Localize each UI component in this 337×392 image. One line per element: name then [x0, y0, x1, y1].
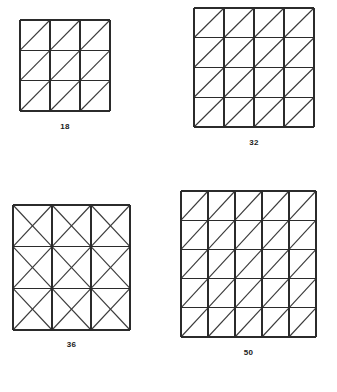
grid-drawing-50: [180, 190, 317, 338]
figure-36: 36: [12, 204, 131, 331]
figure-50: 50: [180, 190, 317, 338]
figure-32: 32: [193, 7, 315, 128]
grid-drawing-18: [19, 19, 111, 112]
figure-label-36: 36: [12, 340, 131, 350]
figure-label-50: 50: [180, 348, 317, 358]
figure-18: 18: [19, 19, 111, 112]
grid-drawing-36: [12, 204, 131, 331]
figure-sheet: 18 32 36 50: [0, 0, 337, 392]
grid-drawing-32: [193, 7, 315, 128]
figure-label-18: 18: [19, 122, 111, 132]
figure-label-32: 32: [193, 138, 315, 148]
